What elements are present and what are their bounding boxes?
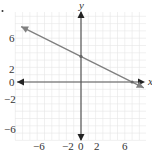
y-tick: −2 — [4, 93, 16, 105]
x-tick: 0 — [78, 140, 84, 150]
x-tick: −2 — [62, 140, 74, 150]
x-tick: 6 — [122, 140, 128, 150]
x-tick-labels: −6 −2 0 2 6 — [33, 140, 128, 150]
y-tick: −6 — [4, 123, 16, 135]
bullet-icon — [2, 10, 4, 12]
y-tick-labels: 6 2 0 −2 −6 — [4, 32, 16, 135]
coordinate-plane: x y −6 −2 0 2 6 6 2 0 −2 −6 — [0, 0, 152, 150]
plotted-line — [21, 27, 144, 88]
y-tick: 2 — [9, 63, 15, 75]
y-axis-label: y — [78, 0, 84, 11]
x-tick: 2 — [94, 140, 100, 150]
x-axis-left-arrow-icon — [17, 79, 24, 86]
x-tick: −6 — [33, 140, 45, 150]
x-axis-label: x — [147, 75, 152, 87]
y-tick: 0 — [9, 76, 15, 88]
y-axis-up-arrow-icon — [78, 11, 85, 18]
y-tick: 6 — [9, 32, 15, 44]
